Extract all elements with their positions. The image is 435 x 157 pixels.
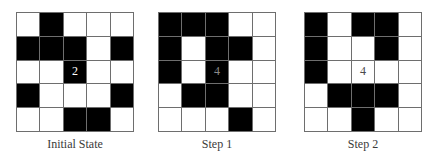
- grid-cell: [159, 37, 181, 60]
- grid-cell: [399, 61, 421, 84]
- grid-cell: [305, 84, 327, 107]
- grid-cell: [159, 108, 181, 131]
- grid-cell: [17, 84, 39, 107]
- grid-cell: [305, 37, 327, 60]
- grid-cell: [253, 13, 275, 36]
- grid-cell: [40, 84, 62, 107]
- grid-cell: [17, 13, 39, 36]
- grid-cell: [229, 37, 251, 60]
- grid-cell: [375, 108, 397, 131]
- grid-cell: [87, 84, 109, 107]
- grid-cell: [40, 13, 62, 36]
- grid-cell: [111, 13, 133, 36]
- grid-cell: [111, 84, 133, 107]
- grid-cell: [182, 108, 204, 131]
- grid-cell: [182, 84, 204, 107]
- grid-cell: [352, 13, 374, 36]
- panel-step-1: 4 Step 1: [158, 12, 276, 132]
- grid-cell: [17, 61, 39, 84]
- grid-cell: [206, 13, 228, 36]
- grid-cell: [159, 61, 181, 84]
- grid-cell: [87, 37, 109, 60]
- grid-cell: [17, 37, 39, 60]
- grid-cell: [40, 61, 62, 84]
- grid-cell: [64, 37, 86, 60]
- grid-cell: [328, 37, 350, 60]
- grid-cell: [305, 108, 327, 131]
- grid-cell: [159, 13, 181, 36]
- grid-step-1: 4: [158, 12, 276, 132]
- grid-cell: [352, 84, 374, 107]
- grid-cell: [64, 13, 86, 36]
- grid-cell: [399, 84, 421, 107]
- grid-cell: [159, 84, 181, 107]
- grid-cell: [375, 84, 397, 107]
- grid-cell: [328, 84, 350, 107]
- grid-cell: [352, 37, 374, 60]
- grid-cell: [182, 61, 204, 84]
- panel-initial-state: 2 Initial State: [16, 12, 134, 132]
- panel-label: Step 2: [304, 137, 422, 152]
- grid-cell: [253, 84, 275, 107]
- grid-cell: [328, 13, 350, 36]
- grid-cell: [305, 61, 327, 84]
- center-cell-value: 4: [352, 61, 374, 84]
- grid-cell: [399, 13, 421, 36]
- grid-initial-state: 2: [16, 12, 134, 132]
- grid-cell: [87, 108, 109, 131]
- grid-cell: [64, 108, 86, 131]
- grid-cell: [305, 13, 327, 36]
- grid-cell: [40, 108, 62, 131]
- grid-cell: [87, 61, 109, 84]
- grid-cell: [206, 108, 228, 131]
- grid-cell: [253, 37, 275, 60]
- grid-cell: [182, 37, 204, 60]
- panel-label: Initial State: [16, 137, 134, 152]
- grid-step-2: 4: [304, 12, 422, 132]
- grid-cell: [229, 108, 251, 131]
- grid-cell: [111, 61, 133, 84]
- grid-cell: [352, 108, 374, 131]
- grid-cell: [206, 84, 228, 107]
- grid-cell: [229, 61, 251, 84]
- grid-cell: [375, 13, 397, 36]
- grid-cell: [375, 37, 397, 60]
- grid-cell: [229, 84, 251, 107]
- grid-cell: [87, 13, 109, 36]
- grid-cell: [328, 108, 350, 131]
- grid-cell: [111, 37, 133, 60]
- grid-cell: [399, 108, 421, 131]
- grid-cell: [111, 108, 133, 131]
- grid-cell: [253, 61, 275, 84]
- grid-cell: [40, 37, 62, 60]
- grid-cell: [17, 108, 39, 131]
- grid-cell: [328, 61, 350, 84]
- center-cell-value: 2: [64, 61, 86, 84]
- grid-cell: [182, 13, 204, 36]
- grid-cell: [253, 108, 275, 131]
- grid-cell: [64, 84, 86, 107]
- panel-step-2: 4 Step 2: [304, 12, 422, 132]
- grid-cell: [206, 37, 228, 60]
- grid-cell: [375, 61, 397, 84]
- panel-label: Step 1: [158, 137, 276, 152]
- center-cell-value: 4: [206, 61, 228, 84]
- grid-cell: [399, 37, 421, 60]
- grid-cell: [229, 13, 251, 36]
